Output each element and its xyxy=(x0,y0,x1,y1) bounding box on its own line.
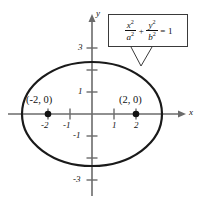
equation-numerator-x: x2 xyxy=(125,19,136,30)
x-tick-label-neg1: -1 xyxy=(63,121,71,130)
equation-denominator-b: b2 xyxy=(146,31,158,42)
y-tick-label-neg1: -1 xyxy=(73,131,81,140)
fraction-x-over-a: x2 a2 xyxy=(125,19,137,42)
y-tick-label-neg3: -3 xyxy=(73,175,81,184)
equals-sign: = xyxy=(160,26,165,36)
y-tick-label-pos3: 3 xyxy=(78,43,83,52)
x-tick-label-pos2: 2 xyxy=(134,121,139,130)
equation-numerator-y: y2 xyxy=(147,19,158,30)
equation-callout-box: x2 a2 + y2 b2 = 1 xyxy=(108,14,188,47)
equation-denominator-a: a2 xyxy=(125,31,137,42)
exponent-y: 2 xyxy=(153,19,156,25)
y-axis-label: y xyxy=(96,9,100,18)
x-tick-label-pos1: 1 xyxy=(112,121,117,130)
exponent-b: 2 xyxy=(153,31,156,37)
point-label-left: (-2, 0) xyxy=(26,95,52,106)
y-axis xyxy=(89,14,96,196)
equation-right-side: 1 xyxy=(168,26,173,36)
point-marker-left xyxy=(45,111,52,118)
x-axis-label: x xyxy=(189,108,193,117)
ellipse-figure: x2 a2 + y2 b2 = 1 x y -2 -1 1 2 3 1 -1 -… xyxy=(0,0,202,210)
point-label-right: (2, 0) xyxy=(119,95,142,106)
fraction-y-over-b: y2 b2 xyxy=(146,19,158,42)
plus-sign: + xyxy=(139,26,144,36)
x-axis xyxy=(8,111,186,118)
point-marker-right xyxy=(133,111,140,118)
ellipse-equation: x2 a2 + y2 b2 = 1 xyxy=(109,15,187,46)
exponent-x: 2 xyxy=(131,19,134,25)
x-tick-label-neg2: -2 xyxy=(41,121,49,130)
exponent-a: 2 xyxy=(131,31,134,37)
y-tick-label-pos1: 1 xyxy=(78,87,83,96)
callout-pointer xyxy=(131,47,152,66)
